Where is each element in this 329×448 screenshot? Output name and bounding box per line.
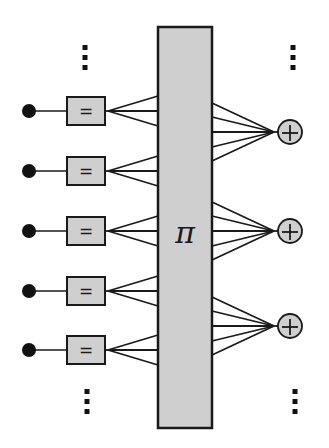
output-fan-line [212, 132, 274, 161]
ellipsis-dot [83, 55, 88, 60]
ellipsis-dot [85, 409, 90, 414]
network-diagram: π ===== [0, 0, 329, 448]
output-fan-line [212, 216, 274, 231]
output-fan-line [212, 311, 274, 326]
input-fan-line [108, 96, 158, 111]
input-fan-line [108, 335, 158, 350]
input-fan-line [108, 171, 158, 186]
output-fan-line [212, 231, 274, 246]
ellipsis-dot [293, 399, 298, 404]
vertical-ellipsis-icon [83, 45, 88, 70]
input-fan-line [108, 350, 158, 365]
pi-label: π [174, 215, 196, 250]
ellipsis-dot [291, 45, 296, 50]
vertical-ellipsis-icon [85, 389, 90, 414]
input-node-dot [22, 343, 36, 357]
input-row: = [22, 277, 105, 305]
input-row: = [22, 157, 105, 185]
sum-node [278, 219, 302, 243]
input-fan-line [108, 276, 158, 291]
output-fan-line [212, 326, 274, 355]
output-fan-line [212, 326, 274, 341]
input-row: = [22, 97, 105, 125]
output-fan-line [212, 117, 274, 132]
sum-node [278, 120, 302, 144]
input-row: = [22, 336, 105, 364]
input-rows: ===== [22, 97, 105, 364]
ellipsis-dot [83, 45, 88, 50]
equals-label: = [79, 281, 93, 301]
input-fan-line [108, 156, 158, 171]
ellipsis-dot [291, 65, 296, 70]
output-fan-line [212, 231, 274, 260]
vertical-ellipsis-icon [291, 45, 296, 70]
vertical-ellipsis-icon [293, 389, 298, 414]
ellipsis-dot [85, 389, 90, 394]
equals-label: = [79, 161, 93, 181]
equals-label: = [79, 221, 93, 241]
ellipsis-dot [83, 65, 88, 70]
output-fan-line [212, 132, 274, 147]
ellipsis-dot [293, 409, 298, 414]
ellipsis-dot [85, 399, 90, 404]
input-fan-line [108, 111, 158, 126]
input-fan-line [108, 291, 158, 306]
input-fan-line [108, 231, 158, 246]
ellipsis-dot [293, 389, 298, 394]
output-fan-line [212, 202, 274, 231]
input-node-dot [22, 224, 36, 238]
input-row: = [22, 217, 105, 245]
output-fan-line [212, 297, 274, 326]
input-node-dot [22, 164, 36, 178]
input-node-dot [22, 104, 36, 118]
central-block-group: π [158, 27, 212, 428]
output-fan-line [212, 103, 274, 132]
sum-nodes [278, 120, 302, 338]
input-fan-line [108, 216, 158, 231]
ellipsis-dot [291, 55, 296, 60]
sum-node [278, 314, 302, 338]
equals-label: = [79, 101, 93, 121]
equals-label: = [79, 340, 93, 360]
input-node-dot [22, 284, 36, 298]
